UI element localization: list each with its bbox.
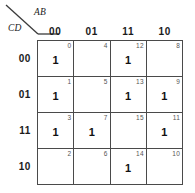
row-header: 10	[4, 149, 35, 185]
cell-value: 1	[111, 161, 146, 173]
row-header: 01	[4, 76, 35, 112]
cell-index: 2	[67, 149, 71, 158]
row-header-column: 00 01 11 10	[4, 40, 35, 185]
kmap-cell[interactable]: 2	[38, 149, 74, 185]
cell-value: 1	[111, 53, 146, 65]
cell-value: 1	[38, 89, 73, 101]
kmap-cell[interactable]: 13 1	[111, 77, 147, 113]
cell-value: 1	[74, 125, 109, 137]
cell-index: 10	[172, 149, 180, 158]
cell-value: 1	[38, 125, 73, 137]
kmap-cell[interactable]: 14 1	[111, 149, 147, 185]
cell-index: 1	[67, 77, 71, 86]
karnaugh-map: AB CD 00 01 11 10 00 01 11 10 0 1 4 12 1…	[0, 0, 195, 193]
column-variable-label: AB	[34, 7, 46, 17]
cell-index: 12	[136, 41, 144, 50]
kmap-cell[interactable]: 5	[74, 77, 110, 113]
cell-index: 8	[176, 41, 180, 50]
cell-index: 7	[104, 113, 108, 122]
column-header: 10	[147, 24, 184, 39]
column-header-row: 00 01 11 10	[37, 24, 183, 39]
cell-index: 9	[176, 77, 180, 86]
row-header: 11	[4, 113, 35, 149]
kmap-cell[interactable]: 15	[111, 113, 147, 149]
cell-value: 1	[147, 125, 182, 137]
kmap-cell[interactable]: 3 1	[38, 113, 74, 149]
cell-index: 14	[136, 149, 144, 158]
kmap-cell[interactable]: 6	[74, 149, 110, 185]
kmap-cell[interactable]: 0 1	[38, 41, 74, 77]
kmap-cell[interactable]: 1 1	[38, 77, 74, 113]
cell-index: 5	[104, 77, 108, 86]
kmap-cell[interactable]: 8	[147, 41, 183, 77]
cell-index: 6	[104, 149, 108, 158]
cell-index: 0	[67, 41, 71, 50]
kmap-cell[interactable]: 4	[74, 41, 110, 77]
kmap-cell[interactable]: 11 1	[147, 113, 183, 149]
kmap-cell[interactable]: 12 1	[111, 41, 147, 77]
cell-value: 1	[38, 53, 73, 65]
column-header: 11	[110, 24, 147, 39]
kmap-cell[interactable]: 7 1	[74, 113, 110, 149]
cell-value: 1	[111, 89, 146, 101]
row-variable-label: CD	[8, 23, 22, 33]
cell-index: 11	[173, 113, 180, 122]
column-header: 01	[74, 24, 111, 39]
cell-index: 15	[136, 113, 144, 122]
column-header: 00	[37, 24, 74, 39]
kmap-cell[interactable]: 10	[147, 149, 183, 185]
cell-index: 3	[67, 113, 71, 122]
kmap-grid: 0 1 4 12 1 8 1 1 5 13 1 9 1	[37, 40, 183, 185]
row-header: 00	[4, 40, 35, 76]
cell-index: 4	[104, 41, 108, 50]
kmap-cell[interactable]: 9 1	[147, 77, 183, 113]
cell-value: 1	[147, 89, 182, 101]
cell-index: 13	[136, 77, 144, 86]
